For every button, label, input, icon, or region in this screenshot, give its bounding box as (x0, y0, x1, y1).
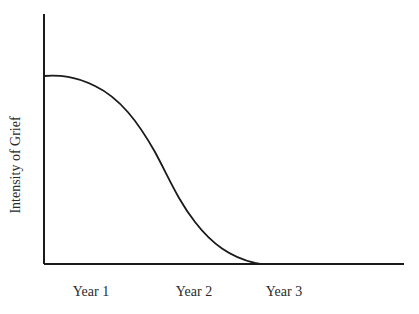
x-tick-year-1: Year 1 (73, 284, 109, 300)
chart-canvas (0, 0, 419, 314)
grief-curve (44, 76, 260, 264)
y-axis-label: Intensity of Grief (8, 116, 24, 213)
x-tick-year-3: Year 3 (266, 284, 302, 300)
x-tick-year-2: Year 2 (176, 284, 212, 300)
